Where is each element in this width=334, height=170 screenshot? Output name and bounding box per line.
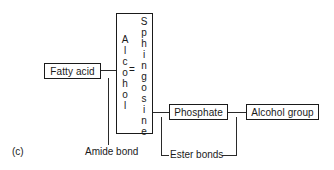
vertical-letter: n [141, 115, 147, 126]
ester-bracket-right [236, 117, 237, 156]
ester-bracket-bottom-right [222, 155, 237, 156]
ester-connector-1 [153, 112, 170, 113]
ester-connector-2 [228, 112, 247, 113]
vertical-letter: c [123, 56, 128, 67]
fatty-acid-box: Fatty acid [44, 63, 101, 79]
vertical-letter: S [141, 16, 148, 27]
vertical-letter: o [141, 82, 147, 93]
amide-connector [101, 70, 117, 71]
vertical-letter: i [143, 104, 145, 115]
vertical-letter: h [141, 38, 147, 49]
ester-bracket-bottom-left [161, 155, 169, 156]
vertical-letter: h [122, 78, 128, 89]
phosphate-label: Phosphate [174, 107, 223, 118]
sphingosine-vertical-text: Sphingosine [139, 16, 149, 137]
alcohol-group-label: Alcohol group [251, 107, 313, 118]
ester-bonds-label: Ester bonds [170, 149, 223, 160]
alcohol-group-box: Alcohol group [246, 104, 319, 120]
vertical-letter: o [122, 67, 128, 78]
amide-bond-label: Amide bond [85, 146, 138, 157]
fatty-acid-label: Fatty acid [50, 66, 94, 77]
amide-bond-pointer [108, 78, 109, 145]
vertical-letter: g [141, 71, 147, 82]
vertical-letter: e [141, 126, 147, 137]
vertical-letter: l [124, 100, 126, 111]
phosphate-box: Phosphate [169, 104, 228, 120]
vertical-letter: i [143, 49, 145, 60]
figure-label: (c) [12, 146, 24, 157]
vertical-letter: l [124, 45, 126, 56]
vertical-letter: n [141, 60, 147, 71]
ester-bracket-left [161, 117, 162, 155]
equals-sign: = [129, 64, 135, 75]
vertical-letter: s [142, 93, 147, 104]
vertical-letter: A [122, 34, 129, 45]
vertical-letter: o [122, 89, 128, 100]
vertical-letter: p [141, 27, 147, 38]
